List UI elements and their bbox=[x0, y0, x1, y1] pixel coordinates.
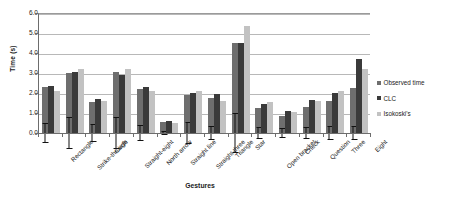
x-axis-tick-mark bbox=[251, 133, 252, 137]
bar-group bbox=[347, 14, 371, 133]
x-axis-tick-mark bbox=[109, 133, 110, 137]
bar-group bbox=[39, 14, 63, 133]
legend-label: Observed time bbox=[384, 79, 425, 86]
bar-2[interactable] bbox=[78, 69, 84, 133]
bar-2[interactable] bbox=[244, 26, 250, 133]
x-axis-tick-mark bbox=[323, 133, 324, 137]
legend-item[interactable]: CLC bbox=[377, 95, 424, 102]
x-axis-tick-mark bbox=[85, 133, 86, 137]
bar-2[interactable] bbox=[101, 101, 107, 133]
x-axis-tick-mark bbox=[38, 133, 39, 137]
plot-area bbox=[38, 13, 370, 133]
legend-label: Isokoski's bbox=[384, 110, 411, 117]
y-axis-tick-label: 2.0 bbox=[2, 89, 38, 96]
bar-2[interactable] bbox=[196, 91, 202, 133]
x-axis-tick-label: Check bbox=[303, 138, 321, 156]
bar-2[interactable] bbox=[267, 102, 273, 133]
bar-group-bars bbox=[110, 14, 134, 133]
legend-item[interactable]: Observed time bbox=[377, 79, 424, 86]
bar-group bbox=[86, 14, 110, 133]
y-axis-tick-label: 3.0 bbox=[2, 69, 38, 76]
x-axis-tick-label: Eight bbox=[373, 138, 388, 153]
bar-group-bars bbox=[158, 14, 182, 133]
bar-2[interactable] bbox=[220, 101, 226, 133]
x-axis-title: Gestures bbox=[0, 182, 400, 189]
legend-swatch-icon bbox=[377, 96, 381, 100]
bar-2[interactable] bbox=[149, 91, 155, 133]
y-axis-tick-label: 0.0 bbox=[2, 129, 38, 136]
bar-2[interactable] bbox=[291, 112, 297, 133]
bar-group bbox=[205, 14, 229, 133]
bar-2[interactable] bbox=[172, 123, 178, 133]
x-axis-tick-mark bbox=[275, 133, 276, 137]
y-axis-tick-label: 5.0 bbox=[2, 29, 38, 36]
bar-group-bars bbox=[86, 14, 110, 133]
bar-group bbox=[158, 14, 182, 133]
bar-2[interactable] bbox=[362, 69, 368, 133]
bar-group-bars bbox=[252, 14, 276, 133]
x-axis-tick-mark bbox=[370, 133, 371, 137]
y-axis-ticks: 0.01.02.03.04.05.06.0 bbox=[0, 13, 38, 133]
x-axis-tick-mark bbox=[204, 133, 205, 137]
bar-group bbox=[134, 14, 158, 133]
bar-group bbox=[324, 14, 348, 133]
x-axis-tick-mark bbox=[133, 133, 134, 137]
bar-group-bars bbox=[134, 14, 158, 133]
x-axis-tick-mark bbox=[62, 133, 63, 137]
x-axis-tick-mark bbox=[228, 133, 229, 137]
legend-swatch-icon bbox=[377, 81, 381, 85]
bar-group-bars bbox=[205, 14, 229, 133]
bar-group bbox=[229, 14, 253, 133]
x-axis-tick-mark bbox=[180, 133, 181, 137]
bar-2[interactable] bbox=[125, 69, 131, 133]
chart-legend: Observed timeCLCIsokoski's bbox=[377, 79, 424, 126]
x-axis-tick-label: Star bbox=[254, 138, 267, 151]
bar-2[interactable] bbox=[315, 101, 321, 133]
bar-group bbox=[181, 14, 205, 133]
bar-group-bars bbox=[300, 14, 324, 133]
y-axis-tick-label: 6.0 bbox=[2, 9, 38, 16]
y-axis-tick-label: 4.0 bbox=[2, 49, 38, 56]
legend-label: CLC bbox=[384, 95, 397, 102]
bar-group bbox=[110, 14, 134, 133]
bar-group-bars bbox=[324, 14, 348, 133]
bar-group bbox=[252, 14, 276, 133]
y-axis-tick-label: 1.0 bbox=[2, 109, 38, 116]
bar-group bbox=[63, 14, 87, 133]
x-axis-tick-label: Question bbox=[329, 138, 352, 161]
bar-group-bars bbox=[276, 14, 300, 133]
bar-group bbox=[276, 14, 300, 133]
x-axis-tick-mark bbox=[299, 133, 300, 137]
bar-group bbox=[300, 14, 324, 133]
legend-item[interactable]: Isokoski's bbox=[377, 110, 424, 117]
bar-group-bars bbox=[229, 14, 253, 133]
x-axis-tick-mark bbox=[346, 133, 347, 137]
legend-swatch-icon bbox=[377, 112, 381, 116]
bar-group-bars bbox=[63, 14, 87, 133]
bar-2[interactable] bbox=[338, 91, 344, 133]
x-axis-tick-mark bbox=[157, 133, 158, 137]
bar-2[interactable] bbox=[54, 91, 60, 133]
x-axis-tick-label: Rectangle bbox=[69, 138, 94, 163]
bar-chart-figure: Time (s) 0.01.02.03.04.05.06.0 Gestures … bbox=[0, 0, 451, 201]
x-axis-tick-label: Three bbox=[350, 138, 367, 155]
bar-group-bars bbox=[39, 14, 63, 133]
bar-group-bars bbox=[181, 14, 205, 133]
bar-group-bars bbox=[347, 14, 371, 133]
